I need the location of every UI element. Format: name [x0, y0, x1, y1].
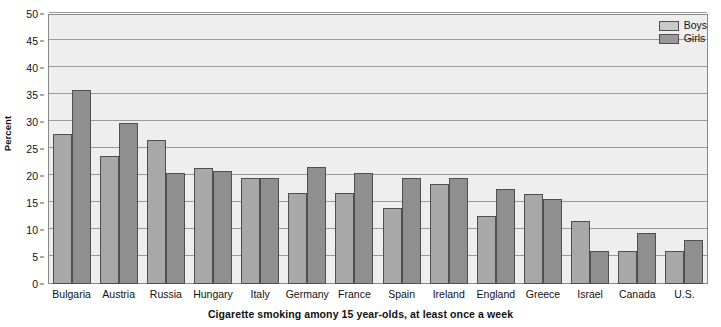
bar-chart: Percent 05101520253035404550 BulgariaAus… — [0, 0, 721, 327]
bar-group — [472, 14, 519, 284]
x-tick-label: U.S. — [661, 288, 708, 300]
y-tick-mark — [40, 257, 44, 258]
gridline — [49, 12, 707, 13]
x-tick-label: Canada — [614, 288, 661, 300]
x-tick-label: Greece — [519, 288, 566, 300]
bar-group — [95, 14, 142, 284]
bar-boys-austria — [100, 156, 119, 284]
bar-group — [284, 14, 331, 284]
bar-girls-france — [354, 173, 373, 284]
y-tick-mark — [40, 176, 44, 177]
x-tick-label: Spain — [378, 288, 425, 300]
y-tick-label: 25 — [26, 143, 38, 155]
bar-boys-bulgaria — [53, 134, 72, 284]
y-tick-mark — [40, 203, 44, 204]
y-tick-label: 35 — [26, 89, 38, 101]
bar-group — [142, 14, 189, 284]
bar-girls-russia — [166, 173, 185, 284]
bar-group — [614, 14, 661, 284]
bar-girls-spain — [402, 178, 421, 284]
bar-girls-greece — [543, 199, 562, 284]
x-axis-title: Cigarette smoking amony 15 year-olds, at… — [0, 308, 721, 320]
legend-item-boys: Boys — [659, 20, 707, 31]
bar-girls-us — [684, 240, 703, 284]
y-tick-label: 50 — [26, 8, 38, 20]
bars-layer — [48, 14, 708, 284]
y-tick-label: 15 — [26, 197, 38, 209]
bar-group — [189, 14, 236, 284]
bar-boys-italy — [241, 178, 260, 284]
y-tick-label: 30 — [26, 116, 38, 128]
x-tick-label: Bulgaria — [48, 288, 95, 300]
bar-boys-england — [477, 216, 496, 284]
bar-group — [567, 14, 614, 284]
y-tick-label: 0 — [32, 278, 38, 290]
bar-girls-austria — [119, 123, 138, 284]
x-tick-label: England — [472, 288, 519, 300]
legend: BoysGirls — [659, 20, 707, 44]
y-tick-mark — [40, 14, 44, 15]
bar-group — [237, 14, 284, 284]
y-tick-mark — [40, 122, 44, 123]
y-tick-mark — [40, 284, 44, 285]
legend-label: Boys — [684, 20, 707, 31]
bar-boys-hungary — [194, 168, 213, 284]
y-tick-mark — [40, 68, 44, 69]
x-axis-tick-labels: BulgariaAustriaRussiaHungaryItalyGermany… — [48, 288, 708, 304]
x-tick-label: France — [331, 288, 378, 300]
bar-group — [331, 14, 378, 284]
legend-label: Girls — [684, 33, 706, 44]
bar-boys-canada — [618, 251, 637, 284]
x-tick-label: Hungary — [189, 288, 236, 300]
y-axis-tick-labels: 05101520253035404550 — [0, 0, 44, 327]
bar-group — [425, 14, 472, 284]
x-tick-label: Israel — [567, 288, 614, 300]
bar-boys-russia — [147, 140, 166, 284]
bar-boys-germany — [288, 193, 307, 284]
y-tick-label: 45 — [26, 35, 38, 47]
bar-boys-ireland — [430, 184, 449, 284]
y-tick-mark — [40, 95, 44, 96]
bar-group — [48, 14, 95, 284]
bar-boys-france — [335, 193, 354, 284]
x-tick-label: Italy — [237, 288, 284, 300]
bar-girls-ireland — [449, 178, 468, 284]
y-tick-label: 10 — [26, 224, 38, 236]
y-tick-mark — [40, 149, 44, 150]
y-tick-label: 20 — [26, 170, 38, 182]
legend-swatch-icon — [659, 21, 679, 31]
bar-girls-bulgaria — [72, 90, 91, 284]
bar-boys-spain — [383, 208, 402, 284]
bar-girls-england — [496, 189, 515, 284]
bar-boys-greece — [524, 194, 543, 284]
bar-girls-germany — [307, 167, 326, 284]
legend-item-girls: Girls — [659, 33, 707, 44]
y-tick-label: 5 — [32, 251, 38, 263]
y-tick-mark — [40, 230, 44, 231]
x-tick-label: Germany — [284, 288, 331, 300]
bar-girls-israel — [590, 251, 609, 284]
bar-boys-us — [665, 251, 684, 284]
y-tick-mark — [40, 41, 44, 42]
bar-group — [378, 14, 425, 284]
bar-girls-hungary — [213, 171, 232, 284]
y-tick-label: 40 — [26, 62, 38, 74]
x-tick-label: Russia — [142, 288, 189, 300]
bar-group — [519, 14, 566, 284]
legend-swatch-icon — [659, 34, 679, 44]
x-tick-label: Ireland — [425, 288, 472, 300]
bar-boys-israel — [571, 221, 590, 284]
x-tick-label: Austria — [95, 288, 142, 300]
bar-group — [661, 14, 708, 284]
bar-girls-italy — [260, 178, 279, 284]
bar-girls-canada — [637, 233, 656, 284]
